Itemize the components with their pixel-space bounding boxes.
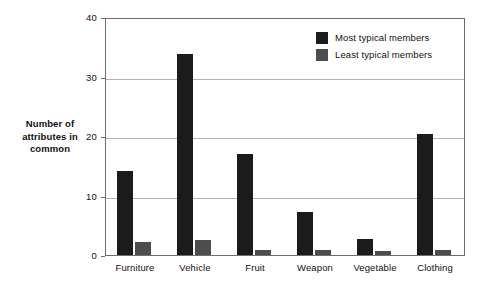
bar bbox=[237, 154, 253, 255]
bar bbox=[435, 250, 451, 255]
legend-label: Most typical members bbox=[335, 32, 429, 43]
bar bbox=[195, 240, 211, 255]
x-tick-label: Weapon bbox=[285, 262, 345, 273]
bar bbox=[177, 54, 193, 255]
legend-label: Least typical members bbox=[335, 49, 432, 60]
bar-group bbox=[226, 19, 286, 255]
bar-group bbox=[106, 19, 166, 255]
bar bbox=[357, 239, 373, 255]
y-axis-title-line-1: Number of bbox=[2, 118, 98, 131]
y-tick-label: 40 bbox=[67, 12, 97, 23]
legend-swatch bbox=[316, 32, 328, 44]
x-tick-label: Vehicle bbox=[165, 262, 225, 273]
bar bbox=[255, 250, 271, 255]
bar bbox=[417, 134, 433, 255]
chart-legend: Most typical membersLeast typical member… bbox=[316, 29, 432, 63]
legend-swatch bbox=[316, 49, 328, 61]
bar-group bbox=[166, 19, 226, 255]
legend-entry: Least typical members bbox=[316, 46, 432, 63]
bar bbox=[297, 212, 313, 255]
bar bbox=[117, 171, 133, 255]
y-tick-label: 20 bbox=[67, 131, 97, 142]
y-tick-label: 30 bbox=[67, 72, 97, 83]
bar bbox=[375, 251, 391, 255]
x-tick-label: Fruit bbox=[225, 262, 285, 273]
y-tick-label: 10 bbox=[67, 191, 97, 202]
y-tick-mark bbox=[101, 256, 105, 257]
x-tick-label: Furniture bbox=[105, 262, 165, 273]
legend-entry: Most typical members bbox=[316, 29, 432, 46]
x-tick-label: Vegetable bbox=[345, 262, 405, 273]
bar bbox=[135, 242, 151, 255]
x-tick-label: Clothing bbox=[405, 262, 465, 273]
bar-chart: Number of attributes in common 010203040… bbox=[0, 0, 479, 294]
y-axis-title-line-3: common bbox=[2, 143, 98, 156]
bar bbox=[315, 250, 331, 255]
y-tick-label: 0 bbox=[67, 250, 97, 261]
